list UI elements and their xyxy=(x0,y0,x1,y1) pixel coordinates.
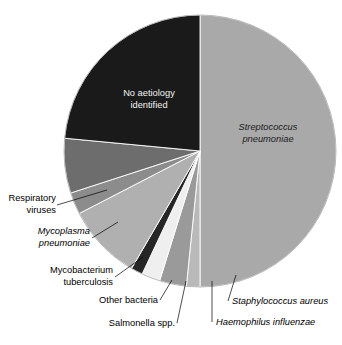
callout-respiratory-viruses-line2: viruses xyxy=(0,205,56,217)
callout-staphylococcus-aureus-text: Staphylococcus aureus xyxy=(232,296,342,308)
callout-mycobacterium-tuberculosis-line2: tuberculosis xyxy=(0,277,113,289)
slice-label-no-aetiology-line1: No aetiology xyxy=(96,88,202,100)
slice-label-no-aetiology-identified: No aetiology identified xyxy=(96,88,202,112)
pie-chart-svg xyxy=(0,0,342,345)
callout-mycoplasma-pneumoniae: Mycoplasma pneumoniae xyxy=(0,226,90,249)
callout-other-bacteria: Other bacteria xyxy=(0,295,158,307)
callout-mycobacterium-tuberculosis: Mycobacterium tuberculosis xyxy=(0,265,113,288)
callout-salmonella-text: Salmonella spp. xyxy=(0,318,175,330)
slice-label-no-aetiology-line2: identified xyxy=(96,100,202,112)
callout-other-bacteria-text: Other bacteria xyxy=(0,295,158,307)
leader-line-salmonella xyxy=(177,281,186,323)
callout-mycobacterium-tuberculosis-line1: Mycobacterium xyxy=(0,265,113,277)
pie-slice-no-aetiology-identified xyxy=(65,15,200,151)
callout-respiratory-viruses-line1: Respiratory xyxy=(0,193,56,205)
slice-label-streptococcus-pneumoniae: Streptococcus pneumoniae xyxy=(212,122,324,146)
slice-label-strep-line2: pneumoniae xyxy=(212,134,324,146)
pie-slice-streptococcus-pneumoniae xyxy=(200,15,336,287)
callout-staphylococcus-aureus: Staphylococcus aureus xyxy=(232,296,342,308)
callout-haemophilus-influenzae-text: Haemophilus influenzae xyxy=(216,317,342,329)
callout-haemophilus-influenzae: Haemophilus influenzae xyxy=(216,317,342,329)
callout-mycoplasma-pneumoniae-line2: pneumoniae xyxy=(0,238,90,250)
callout-salmonella: Salmonella spp. xyxy=(0,318,175,330)
callout-respiratory-viruses: Respiratory viruses xyxy=(0,193,56,216)
callout-mycoplasma-pneumoniae-line1: Mycoplasma xyxy=(0,226,90,238)
pie-slices-group xyxy=(64,15,336,287)
pie-chart-figure: No aetiology identified Streptococcus pn… xyxy=(0,0,342,345)
slice-label-strep-line1: Streptococcus xyxy=(212,122,324,134)
